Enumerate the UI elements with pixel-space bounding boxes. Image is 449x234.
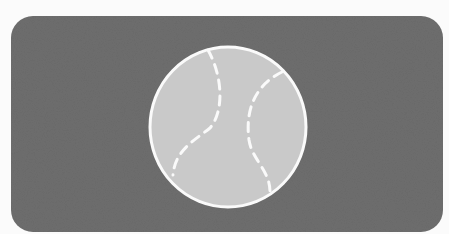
illustration-canvas (0, 0, 449, 234)
baseball-icon (0, 0, 449, 234)
